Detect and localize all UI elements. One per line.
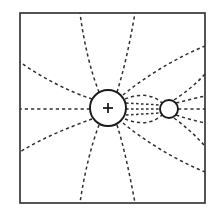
neutral-conductor-circle (160, 100, 178, 118)
figure-root (0, 0, 213, 216)
electric-field-diagram (0, 0, 213, 216)
